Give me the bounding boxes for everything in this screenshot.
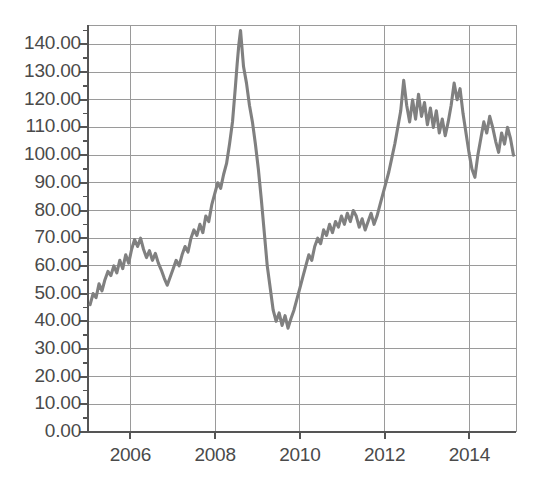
y-axis-tick-label: 10.00 <box>34 392 81 414</box>
y-axis-tick-label: 20.00 <box>34 365 81 387</box>
x-axis-tick-label: 2010 <box>260 444 340 466</box>
y-axis-tick-label: 100.00 <box>24 143 81 165</box>
y-axis-tick-label: 90.00 <box>34 171 81 193</box>
y-axis-tick-label: 70.00 <box>34 226 81 248</box>
x-axis-tick-label: 2006 <box>90 444 170 466</box>
y-axis-tick-label: 0.00 <box>45 420 81 442</box>
y-axis-tick-label: 110.00 <box>25 115 81 137</box>
y-axis-tick-label: 140.00 <box>24 32 81 54</box>
chart-figure: 0.0010.0020.0030.0040.0050.0060.0070.008… <box>0 0 546 498</box>
y-axis-tick-label: 30.00 <box>34 337 81 359</box>
caption-strip <box>0 489 546 498</box>
chart-background <box>0 0 546 498</box>
y-axis-tick-label: 120.00 <box>24 88 81 110</box>
y-axis-tick-label: 80.00 <box>34 199 81 221</box>
y-axis-tick-label: 60.00 <box>34 254 81 276</box>
x-axis-tick-label: 2012 <box>345 444 425 466</box>
x-axis-tick-label: 2014 <box>429 444 509 466</box>
y-axis-tick-label: 50.00 <box>34 282 81 304</box>
y-axis-tick-label: 130.00 <box>24 60 81 82</box>
y-axis-tick-label: 40.00 <box>34 309 81 331</box>
line-chart-plot <box>0 0 546 498</box>
x-axis-tick-label: 2008 <box>175 444 255 466</box>
